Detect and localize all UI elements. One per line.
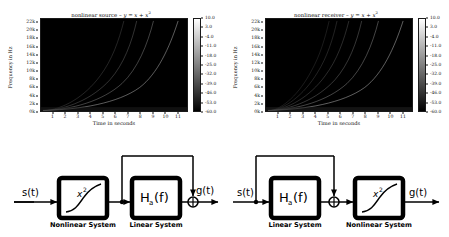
colorbar-tick-mark	[426, 83, 428, 84]
ytick-label: 8k	[254, 77, 260, 82]
xtick-mark	[352, 112, 353, 114]
ytick-label: 16k	[26, 44, 35, 49]
ytick-mark	[261, 54, 263, 55]
colorbar-tick-label: 3.0	[430, 25, 437, 29]
colorbar-tick-label: -11.0	[205, 44, 216, 48]
colorbar-tick-mark	[426, 27, 428, 28]
colorbar-tick-mark	[201, 83, 203, 84]
colorbar-tick-label: -60.0	[205, 110, 216, 114]
xtick-mark	[102, 112, 103, 114]
xtick-label: 4	[89, 115, 92, 120]
xtick-label: 3	[76, 115, 79, 120]
spectrogram-plot-source	[40, 18, 188, 112]
ytick-label: 18k	[26, 36, 35, 41]
xtick-mark	[52, 112, 53, 114]
xtick-mark	[152, 112, 153, 114]
output-label-receiver: g(t)	[409, 187, 427, 198]
colorbar-tick-mark	[426, 112, 428, 113]
colorbar-tick-mark	[426, 74, 428, 75]
block-diagram-receiver: s(t) H a (f) Linear System	[225, 140, 449, 237]
xtick-label: 8	[364, 115, 367, 120]
xtick-label: 7	[126, 115, 129, 120]
colorbar-tick-mark	[426, 18, 428, 19]
spectrogram-panel-source: nonlinear source – y = x + x2	[0, 0, 224, 140]
block-symbol-exponent: 2	[83, 186, 87, 193]
ytick-label: 14k	[251, 52, 260, 57]
colorbar-receiver: 10.03.0-4.0-11.0-18.0-25.0-32.0-39.0-46.…	[418, 18, 426, 112]
ytick-mark	[36, 79, 38, 80]
colorbar-tick-mark	[201, 46, 203, 47]
xtick-mark	[402, 112, 403, 114]
xtick-mark	[90, 112, 91, 114]
block-caption-linear-receiver: Linear System	[268, 221, 321, 229]
xtick-mark	[340, 112, 341, 114]
colorbar-tick-label: -18.0	[430, 53, 441, 57]
colorbar-tick-mark	[201, 102, 203, 103]
colorbar-tick-mark	[201, 112, 203, 113]
block-caption-nonlinear-receiver: Nonlinear System	[346, 221, 412, 229]
xtick-mark	[77, 112, 78, 114]
ytick-mark	[261, 103, 263, 104]
colorbar-gradient-receiver	[418, 18, 426, 112]
spectrogram-panel-receiver: nonlinear receiver – y = x + x2	[225, 0, 449, 140]
ytick-label: 0k	[29, 110, 35, 115]
colorbar-tick-label: -25.0	[205, 63, 216, 67]
colorbar-tick-mark	[201, 93, 203, 94]
xtick-label: 9	[151, 115, 154, 120]
xtick-label: 11	[175, 115, 181, 120]
ytick-label: 12k	[251, 61, 260, 66]
xtick-mark	[390, 112, 391, 114]
colorbar-tick-mark	[201, 74, 203, 75]
spectrogram-ylabel-source: Frequency in Hz	[8, 31, 13, 105]
xtick-label: 10	[387, 115, 393, 120]
spectrogram-xlabel-source: Time in seconds	[40, 120, 188, 126]
spectrogram-ylabel-receiver: Frequency in Hz	[233, 31, 238, 105]
colorbar-tick-mark	[426, 65, 428, 66]
xtick-label: 2	[64, 115, 67, 120]
xtick-mark	[115, 112, 116, 114]
colorbar-tick-label: 10.0	[205, 16, 215, 20]
colorbar-tick-mark	[201, 55, 203, 56]
ytick-label: 18k	[251, 36, 260, 41]
block-caption-linear-source: Linear System	[129, 221, 182, 229]
ytick-label: 14k	[26, 52, 35, 57]
ytick-mark	[261, 95, 263, 96]
block-symbol-arg: (f)	[293, 190, 308, 205]
output-label-source: g(t)	[196, 185, 214, 196]
ytick-mark	[36, 54, 38, 55]
ytick-label: 0k	[254, 110, 260, 115]
title-eq-exp: 2	[148, 10, 150, 15]
input-label-source: s(t)	[22, 187, 39, 198]
xtick-mark	[65, 112, 66, 114]
ytick-label: 8k	[29, 77, 35, 82]
ytick-mark	[261, 71, 263, 72]
xtick-label: 1	[51, 115, 54, 120]
xtick-mark	[277, 112, 278, 114]
colorbar-tick-mark	[426, 93, 428, 94]
ytick-mark	[261, 38, 263, 39]
ytick-label: 4k	[254, 93, 260, 98]
colorbar-tick-label: -25.0	[430, 63, 441, 67]
figure-page: nonlinear source – y = x + x2	[0, 0, 449, 237]
spectrogram-traces-receiver	[266, 19, 412, 111]
colorbar-tick-label: 3.0	[205, 25, 212, 29]
colorbar-tick-mark	[426, 36, 428, 37]
colorbar-tick-label: -60.0	[430, 110, 441, 114]
xtick-mark	[327, 112, 328, 114]
xtick-label: 10	[162, 115, 168, 120]
ytick-label: 22k	[251, 20, 260, 25]
ytick-mark	[36, 95, 38, 96]
colorbar-tick-label: -46.0	[205, 91, 216, 95]
xtick-mark	[302, 112, 303, 114]
block-caption-nonlinear-source: Nonlinear System	[50, 221, 116, 229]
xtick-mark	[377, 112, 378, 114]
block-diagram-receiver-svg: s(t) H a (f) Linear System	[225, 140, 449, 237]
xtick-label: 5	[101, 115, 104, 120]
title-eq-rhs: = x + x	[354, 12, 376, 18]
input-label-receiver: s(t)	[237, 187, 254, 198]
ytick-mark	[36, 62, 38, 63]
xtick-mark	[127, 112, 128, 114]
colorbar-tick-label: -11.0	[430, 44, 441, 48]
ytick-mark	[36, 38, 38, 39]
block-diagram-row: s(t) x 2 Nonlinear System H a (f	[0, 140, 449, 237]
